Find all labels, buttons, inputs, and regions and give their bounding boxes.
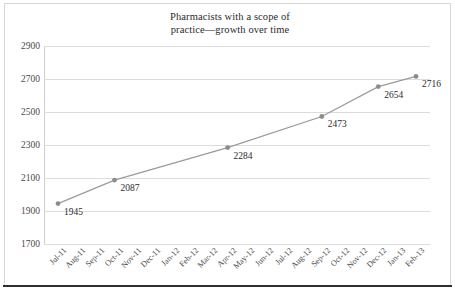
chart-title-line-1: Pharmacists with a scope of <box>60 10 400 23</box>
x-tick-text: Feb-13 <box>404 246 427 269</box>
x-tick-label-sep-11: Sep-11 <box>83 246 106 269</box>
x-tick-label-aug-12: Aug-12 <box>289 246 313 270</box>
x-tick-label-feb-13: Feb-13 <box>404 246 427 269</box>
y-tick-label-2100: 2100 <box>0 173 40 183</box>
line-series-pharmacists <box>44 46 430 244</box>
x-tick-text: Feb-12 <box>177 246 200 269</box>
x-tick-label-dec-12: Dec-12 <box>365 246 388 269</box>
x-tick-text: Jun-12 <box>253 246 275 268</box>
x-tick-text: Sep-11 <box>83 246 106 269</box>
x-tick-text: Dec-12 <box>365 246 388 269</box>
data-point-oct-11 <box>112 178 117 183</box>
x-tick-text: Aug-12 <box>289 246 313 270</box>
x-tick-label-sep-12: Sep-12 <box>309 246 332 269</box>
x-tick-text: Dec-11 <box>139 246 162 269</box>
data-point-jul-11 <box>56 201 61 206</box>
x-tick-label-dec-11: Dec-11 <box>139 246 162 269</box>
data-label-feb-13: 2716 <box>422 79 441 89</box>
x-tick-text: Mar-12 <box>195 246 219 270</box>
x-tick-label-jan-12: Jan-12 <box>160 246 182 268</box>
x-tick-label-jan-13: Jan-13 <box>386 246 408 268</box>
series-polyline <box>58 76 416 203</box>
y-tick-label-2500: 2500 <box>0 107 40 117</box>
chart-title-line-2: practice—growth over time <box>60 23 400 36</box>
x-tick-label-jun-12: Jun-12 <box>253 246 275 268</box>
x-axis-tick-labels: Jul-11Aug-11Sep-11Oct-11Nov-11Dec-11Jan-… <box>44 246 430 292</box>
chart-figure: Pharmacists with a scope of practice—gro… <box>0 0 455 298</box>
x-tick-text: Jan-12 <box>160 246 182 268</box>
figure-right-border <box>450 3 451 286</box>
data-point-sep-12 <box>319 114 324 119</box>
gridline-1700 <box>44 244 430 245</box>
y-tick-label-1700: 1700 <box>0 239 40 249</box>
y-axis-tick-labels: 2900270025002300210019001700 <box>0 46 40 244</box>
x-tick-text: Sep-12 <box>309 246 332 269</box>
x-tick-text: Aug-11 <box>63 246 87 270</box>
data-label-oct-11: 2087 <box>121 183 140 193</box>
data-point-apr-12 <box>225 145 230 150</box>
y-tick-label-2900: 2900 <box>0 41 40 51</box>
y-tick-label-2300: 2300 <box>0 140 40 150</box>
data-point-feb-13 <box>414 74 419 79</box>
plot-area: 194520872284247326542716 <box>44 46 430 244</box>
x-tick-label-aug-11: Aug-11 <box>63 246 87 270</box>
data-point-dec-12 <box>376 84 381 89</box>
x-tick-label-feb-12: Feb-12 <box>177 246 200 269</box>
chart-title: Pharmacists with a scope of practice—gro… <box>60 10 400 36</box>
y-tick-label-2700: 2700 <box>0 74 40 84</box>
data-label-apr-12: 2284 <box>234 151 253 161</box>
x-tick-label-mar-12: Mar-12 <box>195 246 219 270</box>
x-tick-text: Jan-13 <box>386 246 408 268</box>
data-label-dec-12: 2654 <box>384 90 403 100</box>
data-label-sep-12: 2473 <box>328 119 347 129</box>
y-tick-label-1900: 1900 <box>0 206 40 216</box>
data-label-jul-11: 1945 <box>64 207 83 217</box>
figure-top-border <box>4 3 451 4</box>
